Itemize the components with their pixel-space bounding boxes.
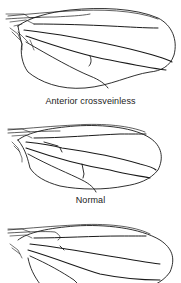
caption-normal: Normal xyxy=(0,195,181,205)
caption-anterior-crossveinless: Anterior crossveinless xyxy=(0,96,181,106)
wing-illustration-partial xyxy=(0,218,181,283)
wing-illustration-anterior-crossveinless xyxy=(0,0,181,95)
wing-illustration-normal xyxy=(0,118,181,193)
wing-venation-figure: Anterior crossveinless Normal xyxy=(0,0,181,283)
